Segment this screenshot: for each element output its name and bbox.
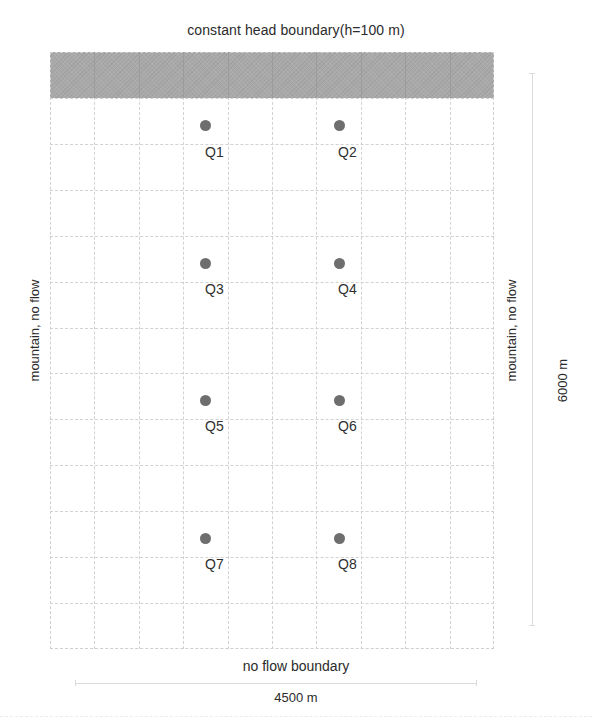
grid-line-horizontal bbox=[50, 282, 494, 283]
grid-line-horizontal bbox=[50, 557, 494, 558]
grid-line-vertical bbox=[316, 52, 317, 649]
grid-line-vertical bbox=[361, 52, 362, 649]
dimension-tick bbox=[476, 680, 477, 686]
grid-line-horizontal bbox=[50, 144, 494, 145]
height-dimension-label: 6000 m bbox=[555, 351, 570, 411]
band-divider bbox=[405, 52, 406, 98]
band-divider bbox=[361, 52, 362, 98]
well-q7-marker bbox=[200, 533, 211, 544]
band-divider bbox=[228, 52, 229, 98]
grid-line-vertical bbox=[272, 52, 273, 649]
bottom-boundary-label: no flow boundary bbox=[0, 658, 592, 674]
well-q8-marker bbox=[334, 533, 345, 544]
grid-line-horizontal bbox=[50, 511, 494, 512]
band-divider bbox=[183, 52, 184, 98]
dimension-tick bbox=[529, 625, 535, 626]
grid-line-horizontal bbox=[50, 98, 494, 99]
grid-line-horizontal bbox=[50, 603, 494, 604]
band-divider bbox=[94, 52, 95, 98]
constant-head-boundary-label: constant head boundary(h=100 m) bbox=[0, 22, 592, 38]
well-q6-label: Q6 bbox=[338, 418, 357, 434]
width-dimension-line bbox=[75, 683, 476, 684]
grid-line-horizontal bbox=[50, 328, 494, 329]
grid-line-vertical bbox=[94, 52, 95, 649]
grid-line-vertical bbox=[405, 52, 406, 649]
grid-line-vertical bbox=[450, 52, 451, 649]
band-divider bbox=[450, 52, 451, 98]
right-boundary-label: mountain, no flow bbox=[504, 269, 519, 393]
well-q3-marker bbox=[200, 258, 211, 269]
well-q1-label: Q1 bbox=[205, 144, 224, 160]
well-q8-label: Q8 bbox=[338, 556, 357, 572]
left-boundary-label: mountain, no flow bbox=[27, 269, 42, 393]
well-q6-marker bbox=[334, 395, 345, 406]
dimension-tick bbox=[75, 680, 76, 686]
grid-line-vertical bbox=[228, 52, 229, 649]
well-q4-marker bbox=[334, 258, 345, 269]
well-q2-marker bbox=[334, 120, 345, 131]
height-dimension-line bbox=[532, 73, 533, 625]
footer-divider bbox=[0, 716, 592, 717]
width-dimension-label: 4500 m bbox=[0, 690, 592, 705]
well-q4-label: Q4 bbox=[338, 281, 357, 297]
band-divider bbox=[139, 52, 140, 98]
well-q7-label: Q7 bbox=[205, 556, 224, 572]
dimension-tick bbox=[529, 73, 535, 74]
grid-line-horizontal bbox=[50, 236, 494, 237]
well-q5-marker bbox=[200, 395, 211, 406]
well-q1-marker bbox=[200, 120, 211, 131]
grid-line-horizontal bbox=[50, 373, 494, 374]
band-divider bbox=[316, 52, 317, 98]
band-divider bbox=[272, 52, 273, 98]
well-q5-label: Q5 bbox=[205, 418, 224, 434]
grid-line-vertical bbox=[183, 52, 184, 649]
well-q3-label: Q3 bbox=[205, 281, 224, 297]
grid-line-vertical bbox=[139, 52, 140, 649]
grid-line-horizontal bbox=[50, 419, 494, 420]
grid-line-horizontal bbox=[50, 465, 494, 466]
grid-line-horizontal bbox=[50, 190, 494, 191]
well-q2-label: Q2 bbox=[338, 144, 357, 160]
